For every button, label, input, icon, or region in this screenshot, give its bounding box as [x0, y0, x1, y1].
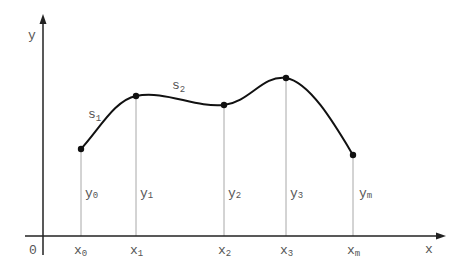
y-label-m: ym: [359, 186, 372, 201]
knot-point-2: [221, 102, 227, 108]
y-axis-arrow-icon: [40, 14, 47, 24]
x-label-m: xm: [347, 243, 360, 259]
x-label-0: x0: [74, 243, 87, 259]
knot-point-3: [283, 75, 289, 81]
segment-label-s2: s2: [172, 78, 185, 95]
knot-point-m: [350, 152, 356, 158]
y-label-3: y3: [290, 186, 303, 201]
y-label-1: y1: [140, 186, 153, 201]
y-axis-label: y: [28, 28, 36, 43]
knot-point-1: [133, 93, 139, 99]
x-axis-label: x: [425, 242, 433, 257]
knot-point-0: [78, 146, 84, 152]
y-label-0: y0: [85, 186, 98, 201]
x-label-2: x2: [218, 243, 231, 259]
knot-points: [78, 75, 356, 158]
x-label-3: x3: [280, 243, 293, 259]
spline-curve: [81, 78, 353, 155]
x-label-1: x1: [130, 243, 143, 259]
origin-label: 0: [29, 243, 37, 258]
x-axis-arrow-icon: [436, 233, 446, 240]
segment-label-s1: s1: [88, 107, 101, 124]
y-label-2: y2: [228, 186, 241, 201]
axes: [25, 20, 440, 255]
spline-diagram: y x 0 s1 s2 y0 y1 y2 y3 ym x0 x1 x2 x3 x…: [0, 0, 467, 271]
